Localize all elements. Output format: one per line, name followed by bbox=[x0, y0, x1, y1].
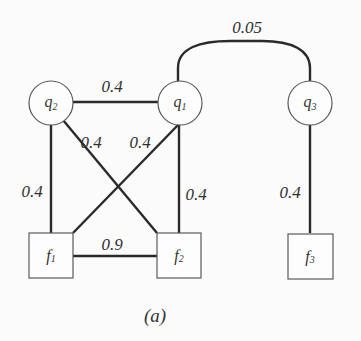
node-f2: f2 bbox=[157, 233, 201, 278]
node-f1: f1 bbox=[29, 233, 73, 278]
edge-label-f1-f2: 0.9 bbox=[101, 235, 123, 254]
edge-label-q2-f1: 0.4 bbox=[21, 182, 43, 201]
edge-label-q1-f1: 0.4 bbox=[129, 133, 151, 152]
edge-label-q2-q1: 0.4 bbox=[101, 77, 123, 96]
node-q2: q2 bbox=[29, 81, 73, 125]
edge-label-q1-q3: 0.05 bbox=[232, 18, 262, 37]
edge-label-q3-f3: 0.4 bbox=[279, 183, 301, 202]
node-q1: q1 bbox=[158, 81, 202, 125]
edge-q1-q3-arc bbox=[178, 41, 310, 81]
edge-labels: 0.4 0.05 0.4 0.4 0.4 0.4 0.9 0.4 bbox=[21, 18, 301, 254]
node-q3: q3 bbox=[288, 81, 332, 125]
edge-label-q2-f2: 0.4 bbox=[80, 133, 102, 152]
figure-caption: (a) bbox=[144, 305, 166, 327]
factor-graph-diagram: 0.4 0.05 0.4 0.4 0.4 0.4 0.9 0.4 q2 q1 q… bbox=[0, 0, 361, 341]
edge-label-q1-f2: 0.4 bbox=[185, 185, 207, 204]
node-f3: f3 bbox=[288, 234, 333, 279]
